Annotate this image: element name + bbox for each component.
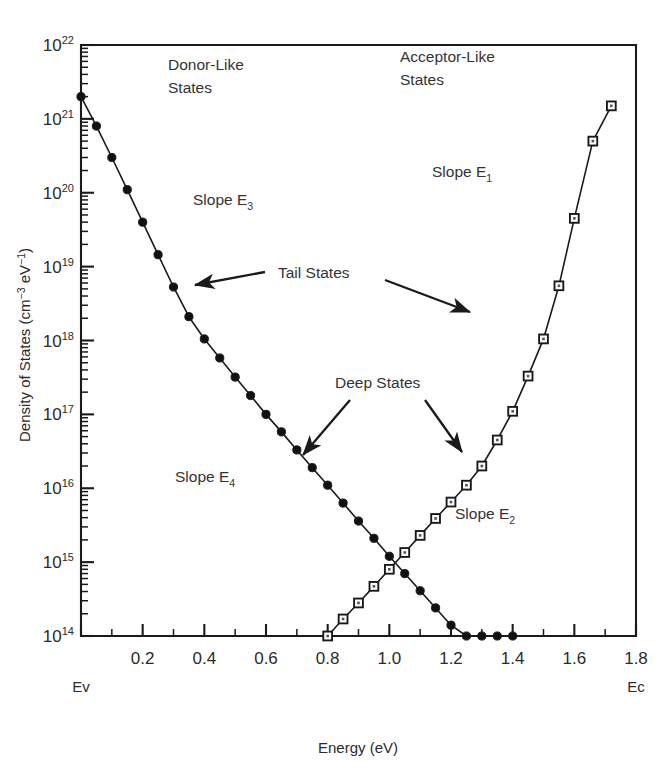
y-tick-exponent: 14 xyxy=(62,625,74,637)
data-point-filled-circle xyxy=(447,621,455,629)
x-tick-label: 1.0 xyxy=(378,649,402,668)
annotation-line: Acceptor-Like xyxy=(400,48,495,65)
conduction-band-edge-label: Ec xyxy=(627,678,645,695)
data-point-filled-circle xyxy=(385,552,393,560)
x-tick-label: 0.8 xyxy=(316,649,340,668)
data-point-filled-circle xyxy=(216,354,224,362)
y-tick-exponent: 21 xyxy=(62,108,74,120)
annotation-line: States xyxy=(168,79,212,96)
y-tick-exponent: 15 xyxy=(62,551,74,563)
y-axis-title-main: Density of States (cm xyxy=(16,299,33,442)
y-axis-title: Density of States (cm−3 eV−1) xyxy=(15,248,33,442)
data-point-filled-circle xyxy=(354,517,362,525)
y-axis-title-exp1: −3 xyxy=(15,287,27,299)
data-point-filled-circle xyxy=(401,569,409,577)
annotation-subscript: 1 xyxy=(486,172,492,184)
data-point-open-square-center xyxy=(419,534,422,537)
data-point-open-square-center xyxy=(434,517,437,520)
y-tick-base: 10 xyxy=(43,36,62,55)
data-point-filled-circle xyxy=(431,604,439,612)
data-point-filled-circle xyxy=(139,218,147,226)
data-point-open-square-center xyxy=(573,217,576,220)
data-point-filled-circle xyxy=(339,499,347,507)
y-tick-base: 10 xyxy=(43,258,62,277)
y-tick-exponent: 20 xyxy=(62,182,74,194)
x-tick-label: 1.2 xyxy=(439,649,463,668)
valence-band-edge-label: Ev xyxy=(72,678,90,695)
data-point-filled-circle xyxy=(108,153,116,161)
data-point-filled-circle xyxy=(123,186,131,194)
y-tick-base: 10 xyxy=(43,184,62,203)
annotation-text: Slope E xyxy=(455,505,509,522)
data-point-filled-circle xyxy=(92,122,100,130)
annotation-subscript: 4 xyxy=(229,477,235,489)
data-point-open-square-center xyxy=(357,602,360,605)
data-point-open-square-center xyxy=(610,105,613,108)
data-point-open-square-center xyxy=(450,501,453,504)
data-point-open-square-center xyxy=(342,618,345,621)
annotation-deep-states: Deep States xyxy=(335,374,421,391)
data-point-filled-circle xyxy=(308,464,316,472)
data-point-filled-circle xyxy=(277,428,285,436)
data-point-filled-circle xyxy=(77,93,85,101)
data-point-filled-circle xyxy=(246,391,254,399)
annotation-text: Slope E xyxy=(193,191,247,208)
data-point-open-square-center xyxy=(558,285,561,288)
data-point-filled-circle xyxy=(293,446,301,454)
data-point-filled-circle xyxy=(154,251,162,259)
data-point-open-square-center xyxy=(527,375,530,378)
y-axis-title-mid: eV xyxy=(16,265,33,288)
y-tick-base: 10 xyxy=(43,479,62,498)
density-of-states-chart: 101410151016101710181019102010211022 0.2… xyxy=(0,0,670,776)
annotation-text: Slope E xyxy=(432,163,486,180)
data-point-filled-circle xyxy=(169,283,177,291)
figure-container: 101410151016101710181019102010211022 0.2… xyxy=(0,0,670,776)
annotation-line: Donor-Like xyxy=(168,56,244,73)
y-axis-title-group: Density of States (cm−3 eV−1) xyxy=(15,248,33,442)
y-tick-base: 10 xyxy=(43,627,62,646)
data-point-filled-circle xyxy=(478,632,486,640)
y-tick-exponent: 22 xyxy=(62,34,74,46)
y-tick-base: 10 xyxy=(43,553,62,572)
data-point-filled-circle xyxy=(416,587,424,595)
data-point-filled-circle xyxy=(509,632,517,640)
data-point-filled-circle xyxy=(200,335,208,343)
data-point-filled-circle xyxy=(370,534,378,542)
y-tick-exponent: 16 xyxy=(62,477,74,489)
annotation-subscript: 3 xyxy=(247,200,253,212)
y-axis-title-close: ) xyxy=(16,248,33,253)
data-point-filled-circle xyxy=(231,373,239,381)
x-tick-label: 0.6 xyxy=(254,649,278,668)
data-point-open-square-center xyxy=(465,484,468,487)
data-point-open-square-center xyxy=(481,465,484,468)
annotation-subscript: 2 xyxy=(509,514,515,526)
x-tick-label: 0.4 xyxy=(193,649,217,668)
annotation-line: States xyxy=(400,71,444,88)
data-point-filled-circle xyxy=(324,481,332,489)
data-point-filled-circle xyxy=(493,632,501,640)
y-tick-base: 10 xyxy=(43,332,62,351)
data-point-filled-circle xyxy=(262,410,270,418)
data-point-open-square-center xyxy=(592,140,595,143)
x-tick-label: 1.6 xyxy=(563,649,587,668)
x-tick-label: 0.2 xyxy=(131,649,155,668)
data-point-filled-circle xyxy=(462,632,470,640)
data-point-open-square-center xyxy=(403,551,406,554)
annotation-tail-states: Tail States xyxy=(278,264,350,281)
x-tick-label: 1.8 xyxy=(624,649,648,668)
y-tick-exponent: 17 xyxy=(62,403,74,415)
data-point-open-square-center xyxy=(496,439,499,442)
data-point-open-square-center xyxy=(388,568,391,571)
data-point-open-square-center xyxy=(326,635,329,638)
annotation-text: Slope E xyxy=(175,468,229,485)
x-axis-tick-labels: 0.20.40.60.81.01.21.41.61.8 xyxy=(131,649,648,668)
y-tick-base: 10 xyxy=(43,110,62,129)
data-point-open-square-center xyxy=(511,410,514,413)
data-point-filled-circle xyxy=(185,313,193,321)
data-point-open-square-center xyxy=(542,338,545,341)
annotation-text: Tail States xyxy=(278,264,350,281)
x-tick-label: 1.4 xyxy=(501,649,525,668)
x-axis-title: Energy (eV) xyxy=(318,739,398,756)
y-axis-title-exp2: −1 xyxy=(15,253,27,265)
annotation-text: Deep States xyxy=(335,374,421,391)
